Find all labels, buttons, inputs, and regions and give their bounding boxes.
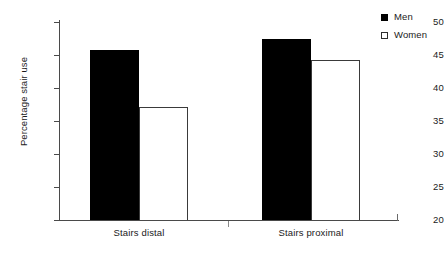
open-square-icon — [381, 32, 388, 39]
x-axis-end-tick — [397, 214, 398, 221]
y-tick-label-40: 40 — [400, 83, 444, 93]
x-axis-label-stairs-proximal: Stairs proximal — [248, 227, 374, 238]
legend-label-women: Women — [394, 30, 427, 40]
x-axis-group-tick — [228, 221, 229, 227]
y-tick-label-30: 30 — [400, 149, 444, 159]
y-tick-30 — [54, 154, 59, 155]
bar-chart: Percentage stair use 50 45 40 35 30 25 2… — [0, 0, 444, 253]
chart-legend: Men Women — [381, 10, 427, 46]
y-tick-50 — [54, 22, 59, 23]
y-tick-label-20: 20 — [400, 215, 444, 225]
y-tick-25 — [54, 187, 59, 188]
y-tick-35 — [54, 121, 59, 122]
y-tick-20 — [54, 220, 59, 221]
y-tick-40 — [54, 88, 59, 89]
y-tick-label-35: 35 — [400, 116, 444, 126]
y-tick-label-25: 25 — [400, 182, 444, 192]
legend-label-men: Men — [394, 12, 413, 22]
bar-women-stairs-distal — [139, 107, 188, 220]
bar-men-stairs-proximal — [262, 39, 311, 221]
bar-women-stairs-proximal — [311, 60, 360, 220]
filled-square-icon — [381, 14, 388, 21]
legend-item-men: Men — [381, 10, 427, 24]
y-tick-45 — [54, 55, 59, 56]
bar-men-stairs-distal — [90, 50, 139, 220]
plot-area — [60, 22, 398, 220]
x-axis-label-stairs-distal: Stairs distal — [79, 227, 199, 238]
y-tick-label-45: 45 — [400, 50, 444, 60]
y-axis-title: Percentage stair use — [18, 27, 29, 177]
legend-item-women: Women — [381, 28, 427, 42]
x-axis-line — [59, 220, 399, 221]
